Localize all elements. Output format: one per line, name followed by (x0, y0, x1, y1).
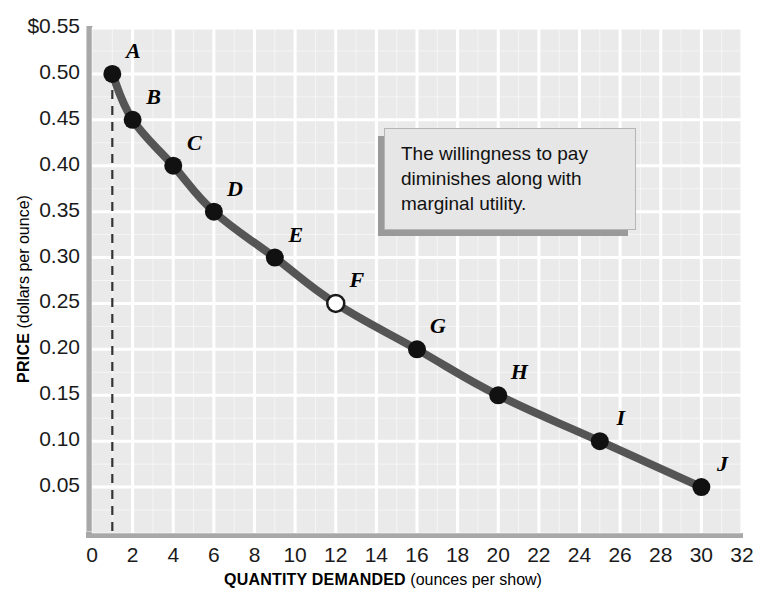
annotation-callout: The willingness to pay diminishes along … (384, 128, 636, 230)
x-axis-title-strong: QUANTITY DEMANDED (224, 571, 406, 588)
x-tick-label: 22 (527, 543, 550, 567)
x-tick-label: 26 (608, 543, 631, 567)
x-tick-label: 2 (127, 543, 139, 567)
y-tick-label: 0.50 (39, 60, 80, 84)
y-tick-label: 0.05 (39, 473, 80, 497)
y-tick-label: 0.40 (39, 152, 80, 176)
y-tick-label: 0.25 (39, 289, 80, 313)
point-label-j: J (717, 451, 728, 477)
y-tick-label: 0.15 (39, 381, 80, 405)
x-tick-label: 20 (487, 543, 510, 567)
point-label-g: G (430, 313, 446, 339)
x-tick-label: 14 (365, 543, 388, 567)
y-tick-label: 0.10 (39, 427, 80, 451)
x-tick-label: 16 (405, 543, 428, 567)
point-label-d: D (227, 176, 243, 202)
x-tick-label: 6 (208, 543, 220, 567)
demand-curve-chart (0, 0, 766, 598)
point-label-a: A (126, 38, 141, 64)
x-tick-label: 12 (324, 543, 347, 567)
point-label-i: I (617, 405, 626, 431)
y-tick-label: $0.55 (27, 14, 80, 38)
point-label-f: F (349, 267, 364, 293)
x-axis-title-units: (ounces per show) (406, 571, 542, 588)
x-tick-label: 24 (568, 543, 591, 567)
y-axis-title: PRICE (dollars per ounce) (15, 29, 33, 549)
x-tick-label: 0 (86, 543, 98, 567)
y-tick-label: 0.45 (39, 106, 80, 130)
point-label-e: E (288, 222, 303, 248)
y-axis-title-strong: PRICE (15, 333, 32, 383)
point-label-c: C (187, 130, 202, 156)
y-tick-label: 0.30 (39, 244, 80, 268)
y-axis-tick-labels: $0.550.500.450.400.350.300.250.200.150.1… (0, 0, 80, 598)
x-tick-label: 18 (446, 543, 469, 567)
point-label-b: B (146, 84, 161, 110)
x-tick-label: 28 (649, 543, 672, 567)
x-axis-title: QUANTITY DEMANDED (ounces per show) (0, 571, 766, 589)
x-tick-label: 4 (167, 543, 179, 567)
x-tick-label: 8 (249, 543, 261, 567)
point-label-h: H (511, 359, 528, 385)
y-tick-label: 0.20 (39, 335, 80, 359)
x-tick-label: 32 (730, 543, 753, 567)
y-tick-label: 0.35 (39, 198, 80, 222)
x-tick-label: 10 (283, 543, 306, 567)
y-axis-title-units: (dollars per ounce) (15, 195, 32, 333)
x-tick-label: 30 (690, 543, 713, 567)
